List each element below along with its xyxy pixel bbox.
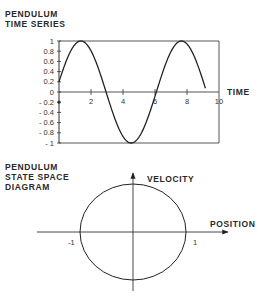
time-series-frame	[59, 41, 219, 143]
y-tick-label: - 1	[45, 139, 54, 148]
position-tick-1: 1	[193, 238, 197, 247]
y-tick-label: 0.2	[44, 77, 54, 86]
y-tick-label: 1	[50, 37, 54, 46]
time-series-plot: 10.80.60.40.20- 0.2- 0.4- 0.6- 0.8- 1 24…	[39, 37, 250, 148]
position-tick-neg1: -1	[68, 238, 75, 247]
y-tick-label: - 0.4	[39, 108, 54, 117]
y-tick-label: - 0.2	[39, 98, 54, 107]
charts-canvas: 10.80.60.40.20- 0.2- 0.4- 0.6- 0.8- 1 24…	[0, 0, 269, 303]
velocity-axis-label: VELOCITY	[147, 174, 194, 184]
y-tick-label: - 0.6	[39, 118, 54, 127]
y-tick-label: - 0.8	[39, 128, 54, 137]
time-series-y-axis: 10.80.60.40.20- 0.2- 0.4- 0.6- 0.8- 1	[39, 37, 61, 148]
time-axis-label: TIME	[227, 87, 250, 97]
state-space-plot: VELOCITY POSITION -1 1	[37, 173, 255, 291]
y-tick-label: 0.8	[44, 47, 54, 56]
y-tick-label: 0.6	[44, 57, 54, 66]
x-tick-label: 4	[121, 97, 125, 106]
y-tick-label: 0.4	[44, 67, 54, 76]
x-tick-label: 8	[185, 97, 189, 106]
position-axis-label: POSITION	[210, 219, 255, 229]
x-tick-label: 2	[89, 97, 93, 106]
y-tick-label: 0	[50, 88, 54, 97]
x-tick-label: 10	[215, 97, 223, 106]
